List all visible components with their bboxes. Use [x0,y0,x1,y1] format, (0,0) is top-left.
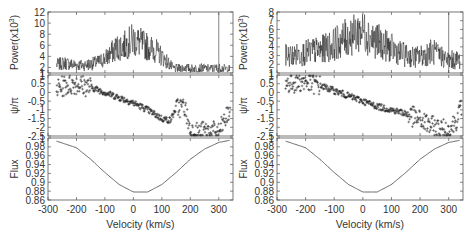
y-tick-label: 1 [39,133,45,144]
y-tick-label: 10 [34,18,46,29]
x-tick-label: 100 [383,204,400,215]
power-axis-label: Power(x103) [237,15,249,70]
x-axis-label: Velocity (km/s) [106,218,174,230]
phase-panel: 10.50-0.5-1-1.5-2-2.5ψ/π [238,70,463,142]
figure-right: 12345678Power(x103)10.50-0.5-1-1.5-2-2.5… [237,7,463,231]
phase-axis-label: ψ/π [9,97,20,114]
x-axis-label: Velocity (km/s) [336,218,404,230]
flux-axis-label: Flux [238,160,249,179]
x-tick-label: -300 [38,204,58,215]
phase-panel: 10.50-0.5-1-1.5-2-2.5ψ/π [9,70,233,142]
y-tick-label: 4 [39,51,45,62]
flux-panel: 0.860.880.90.920.940.960.981Flux [238,133,463,206]
power-line [286,15,460,70]
x-tick-label: -100 [95,204,115,215]
y-tick-label: 12 [34,7,46,18]
figure-container: 124681012Power(x103)10.50-0.5-1-1.5-2-2.… [0,0,468,237]
x-tick-label: 0 [131,204,137,215]
figure-left: 124681012Power(x103)10.50-0.5-1-1.5-2-2.… [8,7,233,231]
power-axis-label: Power(x103) [8,15,20,70]
flux-axis-label: Flux [9,160,20,179]
flux-line [57,140,230,192]
x-tick-label: 100 [154,204,171,215]
phase-axis-label: ψ/π [238,97,249,114]
panel-frame [277,75,463,136]
y-tick-label: 8 [268,7,274,18]
x-tick-label: 0 [360,204,366,215]
x-tick-label: 300 [440,204,457,215]
y-tick-label: 1 [268,133,274,144]
x-tick-label: 300 [210,204,227,215]
x-tick-label: 200 [412,204,429,215]
flux-panel: 0.860.880.90.920.940.960.981Flux [9,133,233,206]
chart-canvas: 124681012Power(x103)10.50-0.5-1-1.5-2-2.… [0,0,468,237]
x-tick-label: -100 [324,204,344,215]
power-panel: 12345678Power(x103) [237,7,463,79]
x-tick-label: -200 [296,204,316,215]
power-panel: 124681012Power(x103) [8,7,233,79]
power-line [57,25,231,72]
x-tick-label: 200 [182,204,199,215]
flux-line [286,140,460,192]
x-tick-label: -300 [267,204,287,215]
panel-frame [48,12,233,73]
y-tick-label: 6 [39,40,45,51]
y-tick-label: 8 [39,29,45,40]
x-tick-label: -200 [66,204,86,215]
